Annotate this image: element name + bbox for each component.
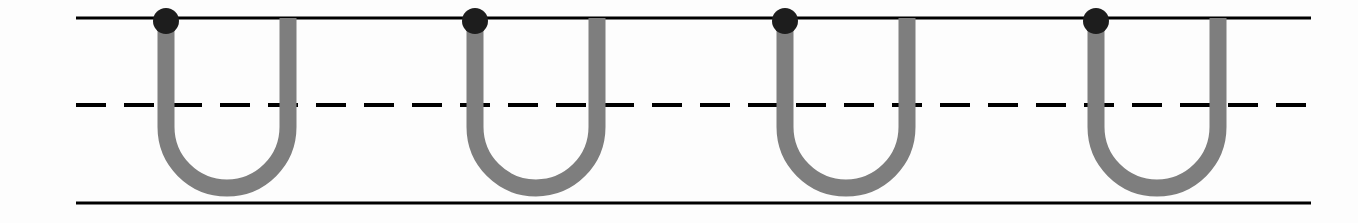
start-dot-icon	[462, 8, 488, 34]
start-dot-icon	[1083, 8, 1109, 34]
start-dot-icon	[153, 8, 179, 34]
start-dot-icon	[772, 8, 798, 34]
worksheet-canvas	[0, 0, 1358, 223]
handwriting-worksheet: Letter U Tracing Practice	[0, 0, 1358, 223]
